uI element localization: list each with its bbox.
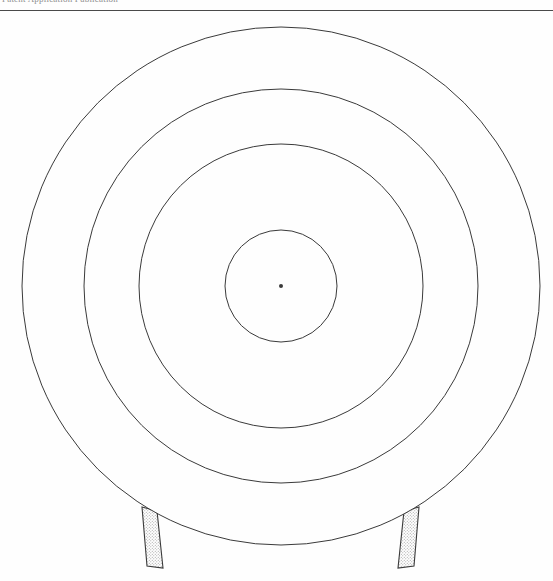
left-leg <box>142 507 163 568</box>
target-figure <box>0 0 553 581</box>
center-point-dot <box>279 284 283 288</box>
figure-page: Patent Application Publication <box>0 0 553 581</box>
right-leg <box>398 507 419 568</box>
